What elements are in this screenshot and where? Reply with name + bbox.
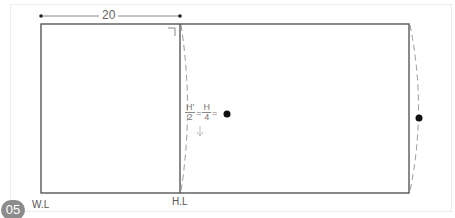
dimension-label: 20 (99, 8, 118, 22)
fraction-right: H 4 (202, 103, 211, 122)
right-angle-mark (168, 28, 175, 36)
dimension-end-dot (178, 14, 182, 18)
hip-line-label: H.L (172, 196, 188, 207)
dimension-start-dot (39, 14, 43, 18)
fraction-right-denominator: 4 (204, 113, 209, 122)
pattern-outline (41, 24, 409, 193)
side-point-dot (416, 115, 423, 122)
side-curve-dashed (410, 25, 419, 191)
fraction-left-denominator: 2 (188, 113, 193, 122)
fraction-left: H' 2 (185, 103, 195, 122)
equals-sign: = (196, 108, 201, 118)
step-badge: 05 (1, 200, 25, 218)
equals-sign-2: = (212, 108, 217, 118)
hip-formula: H' 2 = H 4 = (185, 103, 217, 122)
waist-line-label: W.L (32, 199, 49, 210)
pattern-diagram (0, 0, 455, 218)
hip-point-dot (224, 111, 231, 118)
